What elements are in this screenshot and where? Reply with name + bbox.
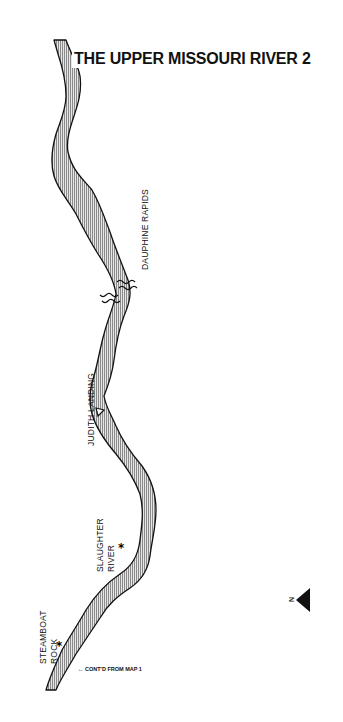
missouri-river: [46, 40, 156, 690]
map-title: THE UPPER MISSOURI RIVER 2: [72, 50, 313, 68]
river-map: * *: [0, 0, 343, 722]
label-slaughter-line1: SLAUGHTER: [95, 518, 105, 572]
label-slaughter-line2: RIVER: [106, 545, 116, 572]
slaughter-river-star-icon: *: [118, 541, 125, 555]
label-steamboat-line1: STEAMBOAT: [38, 610, 48, 664]
north-arrow-icon: [296, 588, 310, 612]
label-dauphine-rapids: DAUPHINE RAPIDS: [140, 189, 150, 270]
label-continued-from-map-1: ← CONT'D FROM MAP 1: [78, 666, 142, 672]
north-letter: N: [288, 597, 295, 602]
label-steamboat-line2: ROCK: [49, 639, 59, 664]
label-judith-landing: JUDITH LANDING: [86, 373, 96, 446]
